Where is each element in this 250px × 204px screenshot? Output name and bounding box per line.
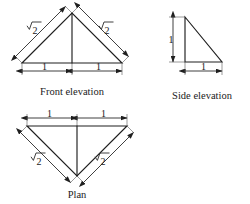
front-left-slope-label: 2 — [27, 22, 42, 36]
front-left-slope-ext-lower — [16, 57, 23, 64]
plan-view: 1 1 2 2 Plan — [21, 108, 134, 200]
side-elevation-caption: Side elevation — [172, 90, 233, 101]
plan-right-slope-label-text: 2 — [100, 156, 105, 167]
front-base-right-label: 1 — [96, 61, 101, 72]
front-right-slope-label-text: 2 — [104, 25, 109, 36]
front-elevation-caption: Front elevation — [40, 86, 105, 97]
front-left-slope-label-text: 2 — [32, 25, 37, 36]
front-right-slope-ext-upper — [72, 7, 79, 14]
front-right-slope-label: 2 — [99, 22, 114, 36]
front-left-slope-dim-line — [16, 7, 66, 57]
side-elevation-outline — [185, 17, 222, 62]
side-base-label: 1 — [201, 61, 206, 72]
side-elevation-view: 1 1 Side elevation — [169, 17, 233, 101]
technical-drawing-figure: 2 2 1 1 Front elevation 1 1 Side — [0, 0, 250, 204]
plan-left-slope-label-text: 2 — [36, 156, 41, 167]
plan-left-slope-ext-lower — [71, 176, 78, 183]
plan-right-slope-ext-upper — [127, 126, 134, 133]
front-elevation-view: 2 2 1 1 Front elevation — [16, 7, 129, 98]
plan-left-slope-dim-line — [21, 133, 71, 183]
front-left-slope-ext-upper — [66, 7, 73, 14]
plan-right-slope-ext-lower — [77, 176, 84, 183]
plan-left-slope-ext-upper — [21, 126, 28, 133]
orthographic-projection-drawing: 2 2 1 1 Front elevation 1 1 Side — [0, 0, 250, 204]
plan-caption: Plan — [68, 189, 87, 200]
plan-right-slope-dim-line — [84, 133, 134, 183]
side-height-label: 1 — [169, 34, 174, 45]
front-right-slope-ext-lower — [122, 57, 129, 64]
plan-top-right-label: 1 — [101, 108, 106, 119]
plan-top-left-label: 1 — [47, 108, 52, 119]
front-base-left-label: 1 — [42, 61, 47, 72]
